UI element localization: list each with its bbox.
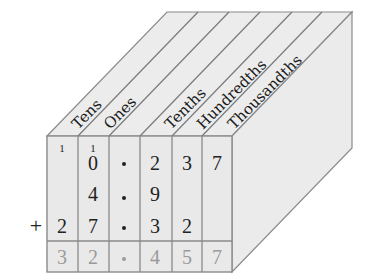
- svg-text:7: 7: [88, 215, 98, 237]
- svg-text:3: 3: [182, 152, 192, 174]
- svg-text:7: 7: [212, 246, 222, 268]
- carry-tens: 1: [59, 142, 65, 154]
- svg-text:0: 0: [88, 152, 98, 174]
- svg-text:7: 7: [212, 152, 222, 174]
- svg-text:2: 2: [88, 246, 98, 268]
- svg-text:2: 2: [150, 152, 160, 174]
- svg-text:3: 3: [57, 246, 67, 268]
- decimal-point: [122, 196, 126, 200]
- plus-operator: +: [30, 213, 42, 238]
- svg-text:9: 9: [150, 183, 160, 205]
- svg-text:2: 2: [182, 215, 192, 237]
- decimal-point: [122, 257, 126, 261]
- decimal-point: [122, 162, 126, 166]
- svg-text:5: 5: [182, 246, 192, 268]
- svg-text:3: 3: [150, 215, 160, 237]
- decimal-point: [122, 226, 126, 230]
- svg-text:2: 2: [57, 215, 67, 237]
- svg-text:4: 4: [150, 246, 160, 268]
- place-value-diagram: Tens Ones Tenths Hundredths Thousandths …: [0, 0, 367, 280]
- svg-text:4: 4: [88, 183, 98, 205]
